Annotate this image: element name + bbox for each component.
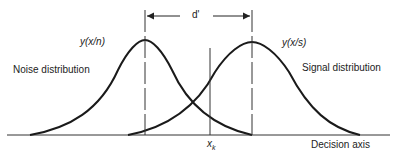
signal-distribution-label: Signal distribution: [302, 62, 381, 73]
arrowhead-left-icon: [147, 13, 154, 20]
decision-axis-label: Decision axis: [311, 139, 370, 150]
diagram-graphics: [0, 0, 396, 157]
sdt-diagram: d' y(x/n) y(x/s) Noise distribution Sign…: [0, 0, 396, 157]
criterion-subscript: k: [212, 144, 216, 151]
criterion-label: xk: [207, 138, 216, 151]
noise-distribution-label: Noise distribution: [13, 64, 90, 75]
d-prime-label: d': [192, 9, 199, 20]
noise-density-label: y(x/n): [80, 36, 105, 47]
noise-distribution-curve: [30, 40, 252, 135]
arrowhead-right-icon: [243, 13, 250, 20]
signal-density-label: y(x/s): [282, 37, 306, 48]
